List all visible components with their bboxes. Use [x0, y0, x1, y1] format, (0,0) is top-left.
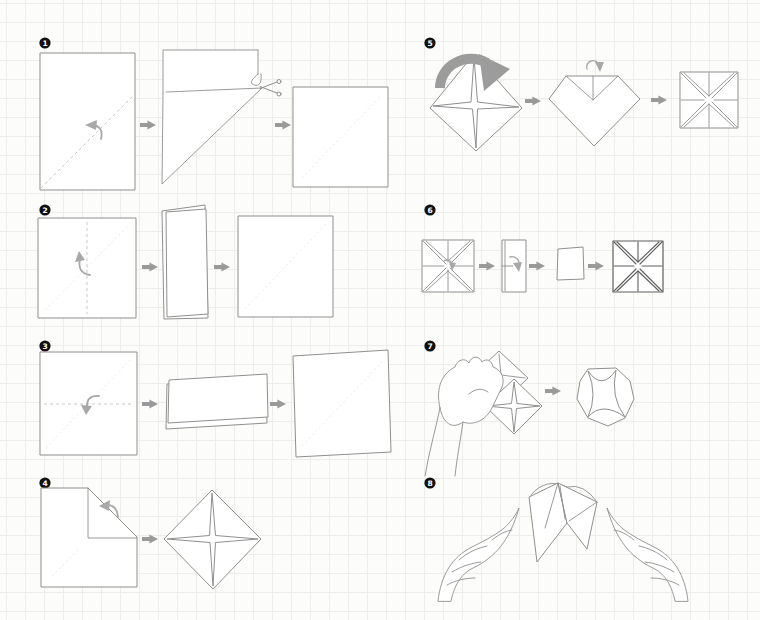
arrow-right-icon: [142, 399, 158, 408]
step-3: 3: [39, 340, 391, 457]
diagram-all-corners-folded-square: [680, 72, 738, 128]
step-4: 4: [39, 477, 261, 589]
arrow-right-icon: [214, 262, 230, 271]
diagram-folded-vertical: [162, 205, 208, 319]
step-number: 5: [427, 39, 432, 48]
step-number: 6: [427, 206, 432, 215]
step-number-badge: 6: [424, 204, 435, 215]
diagram-all-corners-folded-diamond: [164, 490, 261, 589]
arrow-right-icon: [545, 386, 561, 395]
diagram-folded-in-half: [502, 240, 526, 292]
arrow-right-icon: [140, 120, 156, 129]
right-hand-icon: [607, 508, 688, 601]
step-number: 2: [42, 206, 47, 215]
arrow-right-icon: [529, 261, 545, 270]
step-number: 7: [427, 342, 432, 351]
step-6: 6: [422, 204, 663, 292]
step-number-badge: 2: [39, 204, 50, 215]
step-number-badge: 1: [39, 37, 50, 48]
hand-icon: [425, 357, 503, 476]
diagram-corner-folded-down: [549, 61, 640, 146]
diagram-unfolded-square: [293, 350, 391, 457]
arrow-right-icon: [525, 96, 541, 105]
step-7: 7: [424, 340, 634, 476]
arrow-right-icon: [142, 262, 158, 271]
left-hand-icon: [438, 508, 519, 601]
scissors-icon: [260, 80, 281, 97]
diagram-rectangle-diagonal-fold: [40, 53, 135, 190]
diagram-creased-square-final: [613, 241, 663, 292]
step-number: 3: [42, 342, 47, 351]
step-number-badge: 5: [424, 37, 435, 48]
step-number-badge: 7: [424, 340, 435, 351]
step-1: 1: [39, 37, 388, 190]
arrow-right-icon: [275, 120, 291, 129]
arrow-right-icon: [588, 261, 604, 270]
diagram-creased-square: [422, 240, 474, 292]
diagram-corner-folded-to-center: [41, 488, 137, 587]
origami-instruction-sheet: 1: [0, 0, 760, 620]
step-2: 2: [38, 204, 333, 319]
diagram-two-hands-operating: [438, 483, 688, 601]
step-number-badge: 3: [39, 340, 50, 351]
diagram-square-vertical-fold: [38, 218, 136, 318]
diagram-flip-model-over: [430, 54, 522, 151]
fortune-teller-model: [529, 483, 597, 562]
diagram-small-square: [557, 247, 584, 280]
arrow-right-icon: [651, 95, 667, 104]
step-number: 4: [42, 479, 47, 488]
step-8: 8: [424, 477, 688, 601]
step-number-badge: 4: [39, 477, 50, 488]
step-number-badge: 8: [424, 477, 435, 488]
diagram-square-result: [293, 87, 388, 187]
diagram-hand-opening-pockets: [425, 351, 542, 476]
diagram-cut-excess-strip: [162, 50, 281, 184]
step-number: 1: [42, 39, 47, 48]
diagram-folded-horizontal: [166, 374, 268, 429]
origami-instructions-canvas: 1: [0, 0, 760, 620]
diagram-unfolded-square: [238, 216, 333, 317]
step-number: 8: [427, 479, 432, 488]
arrow-right-icon: [142, 534, 158, 543]
diagram-square-horizontal-fold: [40, 352, 137, 455]
diagram-opened-fortune-teller: [577, 368, 634, 426]
arrow-right-icon: [270, 399, 286, 408]
step-5: 5: [424, 37, 738, 151]
arrow-right-icon: [479, 261, 495, 270]
